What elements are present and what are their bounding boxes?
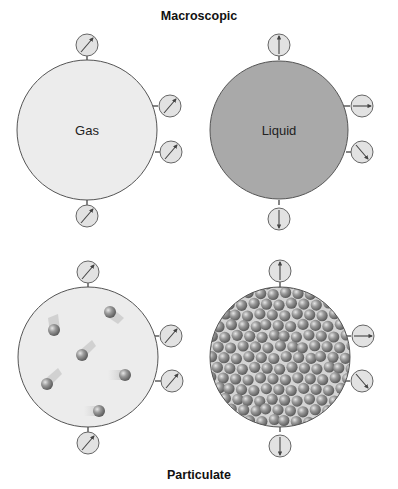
pressure-gauge-icon (268, 34, 290, 56)
pressure-gauge-icon (159, 95, 181, 117)
pressure-gauge-icon (269, 260, 291, 282)
pressure-gauge-icon (77, 432, 99, 454)
pressure-gauge-icon (76, 205, 98, 227)
pressure-gauge-icon (269, 435, 291, 457)
liquid-macroscopic-panel: Liquid (210, 34, 373, 230)
pressure-gauge-icon (77, 261, 99, 283)
pressure-gauge-icon (268, 208, 290, 230)
gas-label: Gas (75, 123, 99, 138)
pressure-gauge-icon (76, 34, 98, 56)
pressure-diagram: Gas Liquid (0, 0, 398, 489)
liquid-label: Liquid (262, 123, 297, 138)
pressure-gauge-icon (351, 95, 373, 117)
pressure-gauge-icon (160, 325, 182, 347)
particulate-heading: Particulate (0, 468, 398, 482)
pressure-gauge-icon (352, 325, 374, 347)
pressure-gauge-icon (161, 370, 183, 392)
liquid-particulate-panel (199, 260, 374, 457)
pressure-gauge-icon (351, 141, 373, 163)
gas-macroscopic-panel: Gas (17, 34, 182, 227)
gas-particulate-panel (18, 261, 183, 454)
pressure-gauge-icon (160, 141, 182, 163)
pressure-gauge-icon (351, 370, 373, 392)
